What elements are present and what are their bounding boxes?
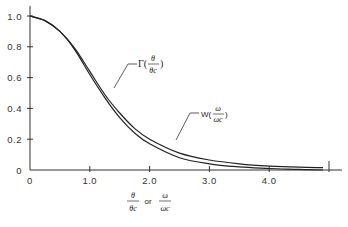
gamma-curve bbox=[30, 16, 323, 170]
w-annotation: W( ω ωc ) bbox=[176, 104, 228, 140]
axes bbox=[30, 6, 342, 170]
gamma-suffix: ) bbox=[160, 58, 163, 70]
x-label-omega-den: ωc bbox=[160, 204, 170, 213]
y-ticks: 00.20.40.60.81.0 bbox=[7, 11, 33, 176]
y-tick-label: 1.0 bbox=[7, 11, 22, 22]
y-tick-label: 0.8 bbox=[7, 41, 22, 52]
series bbox=[30, 16, 323, 170]
w-suffix: ) bbox=[225, 110, 228, 119]
x-axis-label: θ θc or ω ωc bbox=[127, 191, 171, 213]
gamma-leader-line bbox=[114, 64, 137, 88]
y-tick-label: 0.6 bbox=[7, 72, 22, 83]
w-prefix: W( bbox=[201, 110, 212, 119]
y-tick-label: 0 bbox=[16, 165, 22, 176]
w-curve bbox=[30, 16, 323, 168]
gamma-numerator: θ bbox=[151, 54, 155, 63]
gamma-prefix: Γ( bbox=[138, 58, 148, 70]
x-label-omega-num: ω bbox=[162, 191, 168, 200]
x-ticks: 01.02.03.04.0 bbox=[27, 166, 276, 186]
w-leader-line bbox=[176, 113, 199, 140]
x-tick-label: 2.0 bbox=[142, 175, 157, 186]
x-tick-label: 3.0 bbox=[202, 175, 217, 186]
w-denominator: ωc bbox=[213, 115, 223, 124]
x-label-theta-num: θ bbox=[131, 191, 135, 200]
x-tick-label: 1.0 bbox=[82, 175, 97, 186]
chart: 00.20.40.60.81.0 01.02.03.04.0 Γ( θ θc )… bbox=[0, 0, 348, 227]
x-label-or: or bbox=[144, 197, 151, 206]
x-tick-label: 0 bbox=[27, 175, 33, 186]
gamma-annotation: Γ( θ θc ) bbox=[114, 54, 163, 88]
x-label-theta-den: θc bbox=[129, 204, 137, 213]
gamma-denominator: θc bbox=[149, 66, 157, 75]
y-tick-label: 0.2 bbox=[7, 134, 22, 145]
y-tick-label: 0.4 bbox=[7, 103, 22, 114]
x-tick-label: 4.0 bbox=[262, 175, 277, 186]
w-numerator: ω bbox=[215, 104, 221, 113]
